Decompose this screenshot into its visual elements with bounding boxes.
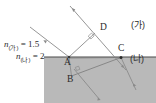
n-subscript-lower: (나) [21, 57, 31, 63]
point-a-label: A [64, 58, 71, 68]
point-d-label: D [100, 23, 107, 33]
n-value-lower: 2 [40, 51, 45, 61]
equals-upper: = [21, 39, 26, 49]
equals-lower: = [33, 51, 38, 61]
point-b-label: B [67, 75, 73, 85]
refractive-index-lower-label: n(나) = 2 [16, 52, 45, 63]
n-subscript-upper: (가) [9, 45, 19, 51]
medium-lower-label: (나) [130, 55, 144, 64]
point-c-label: C [118, 44, 124, 54]
n-value-upper: 1.5 [28, 39, 39, 49]
segment-A-to-C [69, 58, 121, 59]
medium-upper-label: (가) [131, 21, 145, 30]
segment-A-to-D [69, 33, 95, 57]
optics-refraction-figure: n(가) = 1.5 n(나) = 2 A B C D (가) (나) [0, 0, 156, 103]
refractive-index-upper-label: n(가) = 1.5 [4, 40, 39, 51]
point-C-dot [120, 56, 123, 59]
incident-ray-arrowhead-icon [43, 40, 47, 43]
